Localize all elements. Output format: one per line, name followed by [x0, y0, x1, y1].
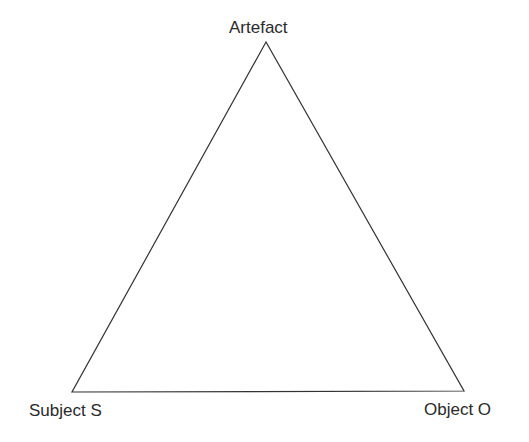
- vertex-label-artefact: Artefact: [229, 18, 288, 38]
- vertex-label-subject: Subject S: [29, 401, 102, 421]
- vertex-label-object: Object O: [424, 400, 491, 420]
- triangle-shape: [72, 42, 464, 392]
- triangle-diagram: [0, 0, 529, 442]
